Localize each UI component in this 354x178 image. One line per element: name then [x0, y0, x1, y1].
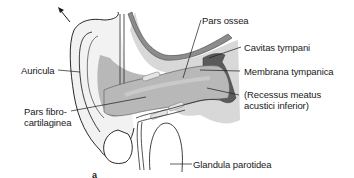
label-pars-ossea: Pars ossea — [202, 15, 249, 26]
label-recessus-line1: (Recessus meatus — [244, 89, 321, 100]
label-pars-fibro-line1: Pars fibro- — [24, 106, 67, 117]
label-membrana-tympanica: Membrana tympanica — [244, 66, 334, 77]
cartilage-plate-line-2 — [141, 122, 144, 170]
label-cavitas-tympani: Cavitas tympani — [244, 42, 310, 53]
panel-label: a — [92, 170, 97, 178]
label-glandula-parotidea: Glandula parotidea — [193, 159, 271, 170]
direction-arrow-icon — [58, 7, 70, 22]
label-recessus-line2: acustici inferior) — [244, 100, 309, 111]
label-auricula: Auricula — [21, 65, 55, 76]
parotid-gland — [150, 123, 183, 172]
label-pars-fibro-line2: cartilaginea — [24, 117, 71, 128]
ear-anatomy-figure: Auricula Pars ossea Cavitas tympani Memb… — [0, 0, 354, 178]
cartilage-plate-line — [137, 122, 140, 170]
